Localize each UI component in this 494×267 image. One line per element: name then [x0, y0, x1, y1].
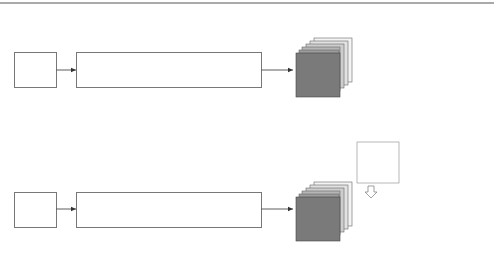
feature-block-bottom: [296, 182, 352, 241]
hollow-down-arrow-icon: [365, 186, 377, 198]
top-pipeline: [15, 38, 353, 97]
input-box-top: [15, 53, 57, 88]
feature-extractor-box-bottom: [77, 193, 262, 228]
architecture-diagram: [0, 0, 494, 267]
feature-extractor-box-top: [77, 53, 262, 88]
feature-block-top: [296, 38, 352, 97]
average-pool-kernel: [357, 142, 399, 183]
bottom-pipeline: [15, 142, 400, 241]
input-box-bottom: [15, 193, 57, 228]
